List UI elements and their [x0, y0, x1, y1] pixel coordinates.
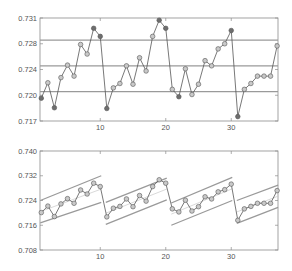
- data-point: [78, 188, 83, 193]
- y-tick-label: 0.720: [18, 91, 37, 100]
- data-point: [222, 187, 227, 192]
- data-point: [229, 182, 234, 187]
- data-point: [157, 177, 162, 182]
- data-point: [124, 197, 129, 202]
- data-point: [203, 194, 208, 199]
- x-tick-label: 20: [162, 123, 170, 132]
- data-point: [183, 66, 188, 71]
- data-point: [216, 47, 221, 52]
- data-point: [268, 201, 273, 206]
- data-point: [203, 58, 208, 63]
- y-tick-label: 0.717: [18, 117, 37, 126]
- data-point: [111, 206, 116, 211]
- data-point: [91, 181, 96, 186]
- y-tick-label: 0.740: [18, 147, 37, 156]
- data-point: [268, 74, 273, 79]
- out-of-control-point: [157, 18, 162, 23]
- data-point: [262, 74, 267, 79]
- data-point: [275, 188, 280, 193]
- data-point: [242, 87, 247, 92]
- data-point: [98, 184, 103, 189]
- out-of-control-point: [229, 28, 234, 33]
- data-point: [39, 210, 44, 215]
- y-tick-label: 0.731: [18, 14, 37, 23]
- x-tick-label: 30: [227, 252, 235, 261]
- x-tick-label: 30: [227, 123, 235, 132]
- data-point: [144, 199, 149, 204]
- out-of-control-point: [236, 114, 241, 119]
- data-point: [255, 201, 260, 206]
- data-point: [275, 44, 280, 49]
- data-point: [163, 181, 168, 186]
- data-point: [249, 81, 254, 86]
- data-point: [216, 190, 221, 195]
- data-point: [85, 52, 90, 57]
- data-point: [242, 207, 247, 212]
- data-point: [65, 63, 70, 68]
- y-tick-label: 0.724: [18, 196, 37, 205]
- data-point: [144, 69, 149, 74]
- data-point: [255, 74, 260, 79]
- data-point: [131, 82, 136, 87]
- data-point: [209, 197, 214, 202]
- data-point: [249, 204, 254, 209]
- out-of-control-point: [39, 96, 44, 101]
- out-of-control-point: [163, 26, 168, 31]
- data-point: [46, 204, 51, 209]
- x-tick-label: 20: [162, 252, 170, 261]
- x-tick-label: 10: [96, 123, 104, 132]
- data-point: [209, 64, 214, 69]
- y-tick-label: 0.728: [18, 39, 37, 48]
- data-point: [190, 209, 195, 214]
- data-point: [105, 215, 110, 220]
- data-point: [124, 64, 129, 69]
- data-point: [52, 214, 57, 219]
- out-of-control-point: [177, 94, 182, 99]
- data-point: [150, 184, 155, 189]
- data-point: [131, 204, 136, 209]
- y-tick-label: 0.724: [18, 65, 37, 74]
- data-point: [236, 218, 241, 223]
- data-point: [137, 193, 142, 198]
- out-of-control-point: [91, 26, 96, 31]
- data-point: [222, 41, 227, 46]
- bottom-trend-control-chart: 0.7080.7160.7240.7320.740102030: [18, 147, 279, 261]
- data-point: [150, 34, 155, 39]
- data-point: [170, 87, 175, 92]
- y-tick-label: 0.732: [18, 171, 37, 180]
- y-tick-label: 0.708: [18, 246, 37, 255]
- data-point: [177, 210, 182, 215]
- y-tick-label: 0.716: [18, 221, 37, 230]
- data-point: [183, 198, 188, 203]
- data-point: [72, 201, 77, 206]
- top-control-chart: 0.7170.7200.7240.7280.731102030: [18, 14, 279, 132]
- data-point: [137, 55, 142, 60]
- data-point: [196, 204, 201, 209]
- out-of-control-point: [52, 105, 57, 110]
- data-point: [46, 80, 51, 85]
- data-point: [85, 192, 90, 197]
- data-point: [111, 86, 116, 91]
- control-charts: 0.7170.7200.7240.7280.731102030 0.7080.7…: [0, 0, 292, 271]
- data-point: [118, 81, 123, 86]
- out-of-control-point: [98, 34, 103, 39]
- data-point: [262, 201, 267, 206]
- data-point: [190, 92, 195, 97]
- data-point: [59, 75, 64, 80]
- data-point: [59, 202, 64, 207]
- data-point: [72, 74, 77, 79]
- data-point: [65, 196, 70, 201]
- data-point: [170, 207, 175, 212]
- out-of-control-point: [105, 106, 110, 111]
- data-point: [196, 82, 201, 87]
- x-tick-label: 10: [96, 252, 104, 261]
- data-point: [118, 204, 123, 209]
- data-point: [78, 42, 83, 47]
